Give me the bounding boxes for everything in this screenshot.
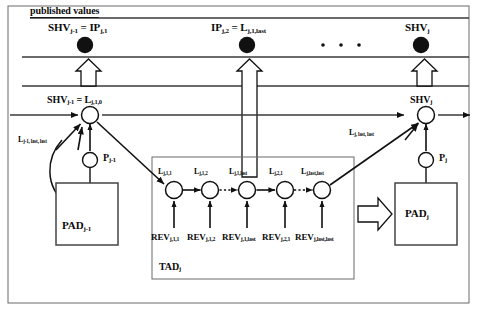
tad-node-label-0: Lj,1,1 (158, 168, 172, 176)
timeline-label-right: SHVj (410, 95, 432, 106)
tad-node-label-2: Lj,1,last (229, 168, 247, 176)
processor-label-left: Pj-1 (103, 153, 116, 164)
timeline-node-right (418, 107, 435, 124)
processor-circle-right (419, 153, 434, 168)
ellipsis-dot-2 (339, 43, 343, 47)
edge-label-right-incoming: Lj, last, last (349, 129, 374, 137)
publish-arrow-middle (237, 59, 262, 177)
pad-box-left (56, 183, 118, 245)
published-values-caption: published values (30, 6, 99, 18)
processor-label-right: Pj (439, 153, 447, 164)
tad-node-label-4: Lj,last,last (301, 168, 324, 176)
rev-label-0: REVj,1,1 (151, 233, 179, 243)
rev-label-1: REVj,1,2 (187, 233, 215, 243)
published-label-1: SHVj-1 = IPj,1 (48, 22, 107, 35)
ellipsis-dot-3 (357, 43, 361, 47)
timeline-label-left: SHVj-1 = Lj,1,0 (47, 95, 102, 106)
outer-frame (8, 6, 469, 303)
pad-right-block-arrow (358, 198, 392, 230)
publish-block-arrows (76, 59, 437, 177)
tad-chain (166, 182, 331, 229)
published-dot-2 (239, 37, 255, 53)
published-dot-1 (77, 37, 93, 53)
rev-label-4: REVj,last,last (295, 233, 334, 243)
tad-node-label-1: Lj,1,2 (194, 168, 208, 176)
pad-label-right: PADj (405, 208, 429, 221)
rev-label-2: REVj,1,last (222, 233, 255, 243)
main-timeline (10, 107, 470, 124)
right-pad-group (358, 124, 457, 245)
publish-arrow-right (412, 59, 437, 86)
published-value-dots (77, 37, 429, 53)
published-label-2: IPj,2 = Lj,1,last (211, 22, 266, 35)
published-label-3: SHVj (405, 22, 429, 35)
processor-circle-left (83, 153, 98, 168)
ellipsis-dot-1 (321, 43, 325, 47)
figure-canvas: published values SHVj-1 = IPj,1 IPj,2 = … (0, 0, 477, 309)
tad-label: TADj (159, 262, 181, 273)
edge-label-left-incoming: Lj-1, last, last (18, 136, 47, 144)
timeline-node-left (82, 107, 99, 124)
diagram-vector-layer (0, 0, 477, 309)
publish-arrow-left (76, 59, 101, 86)
published-dot-3 (413, 37, 429, 53)
tad-node-label-3: Lj,2,1 (269, 168, 283, 176)
rev-label-3: REVj,2,1 (262, 233, 290, 243)
pad-label-left: PADj-1 (62, 220, 91, 233)
